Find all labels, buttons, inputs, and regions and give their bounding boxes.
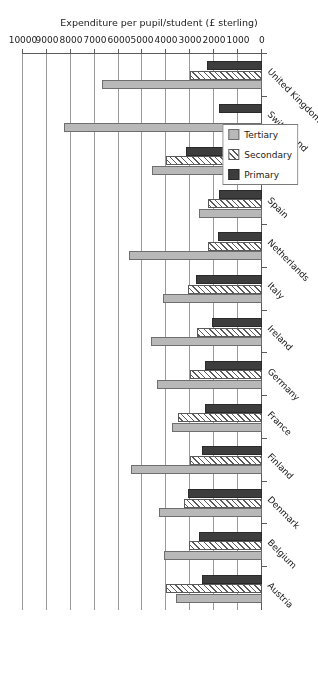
bar-tertiary bbox=[163, 294, 262, 303]
bar-tertiary bbox=[151, 337, 262, 346]
category-label: Netherlands bbox=[265, 238, 311, 284]
bar-group bbox=[23, 225, 262, 268]
bar-primary bbox=[205, 404, 262, 413]
bar-secondary bbox=[178, 413, 262, 422]
bar-group bbox=[23, 482, 262, 525]
value-axis-tick-label: 10000 bbox=[1, 35, 45, 45]
bar-tertiary bbox=[131, 465, 262, 474]
bar-tertiary bbox=[172, 423, 262, 432]
bar-group bbox=[23, 567, 262, 610]
category-label: Germany bbox=[265, 366, 301, 402]
bar-group bbox=[23, 268, 262, 311]
bar-tertiary bbox=[176, 594, 262, 603]
legend-item-tertiary: Tertiary bbox=[228, 129, 292, 140]
bar-primary bbox=[218, 232, 262, 241]
category-axis-tick bbox=[262, 523, 267, 524]
category-axis-tick bbox=[262, 53, 267, 54]
bar-group bbox=[23, 182, 262, 225]
category-label: Spain bbox=[265, 195, 290, 220]
bar-secondary bbox=[208, 242, 262, 251]
chart-legend: PrimarySecondaryTertiary bbox=[222, 124, 298, 185]
bar-secondary bbox=[197, 328, 262, 337]
secondary-swatch-icon bbox=[228, 149, 239, 160]
category-label: Ireland bbox=[265, 323, 294, 352]
bar-group bbox=[23, 353, 262, 396]
category-axis-tick bbox=[262, 352, 267, 353]
bar-group bbox=[23, 396, 262, 439]
category-axis-tick bbox=[262, 566, 267, 567]
category-axis-tick bbox=[262, 96, 267, 97]
legend-item-secondary: Secondary bbox=[228, 149, 292, 160]
bar-secondary bbox=[189, 541, 262, 550]
category-label: Finland bbox=[265, 452, 295, 482]
bar-tertiary bbox=[102, 80, 262, 89]
bar-tertiary bbox=[159, 508, 262, 517]
tertiary-swatch-icon bbox=[228, 129, 239, 140]
legend-label: Secondary bbox=[244, 150, 292, 160]
bar-primary bbox=[207, 61, 262, 70]
bar-secondary bbox=[190, 456, 262, 465]
legend-label: Tertiary bbox=[244, 130, 278, 140]
bar-group bbox=[23, 439, 262, 482]
bar-tertiary bbox=[157, 380, 262, 389]
category-label: Denmark bbox=[265, 495, 301, 531]
bar-group bbox=[23, 524, 262, 567]
bar-secondary bbox=[190, 71, 262, 80]
category-axis-tick bbox=[262, 438, 267, 439]
category-axis-tick bbox=[262, 267, 267, 268]
bar-secondary bbox=[188, 285, 262, 294]
legend-item-primary: Primary bbox=[228, 169, 292, 180]
category-axis-tick bbox=[262, 481, 267, 482]
category-axis-tick bbox=[262, 395, 267, 396]
category-label: Italy bbox=[265, 281, 286, 302]
category-axis-tick bbox=[262, 224, 267, 225]
bar-primary bbox=[219, 104, 262, 113]
grouped-bar-chart: Expenditure per pupil/student (£ sterlin… bbox=[0, 0, 318, 682]
bar-primary bbox=[188, 489, 262, 498]
bar-primary bbox=[202, 446, 262, 455]
bar-secondary bbox=[184, 499, 262, 508]
category-label: France bbox=[265, 409, 293, 437]
bar-primary bbox=[199, 532, 262, 541]
primary-swatch-icon bbox=[228, 169, 239, 180]
bar-primary bbox=[205, 361, 262, 370]
category-label: Austria bbox=[265, 580, 295, 610]
category-label: Belgium bbox=[265, 537, 298, 570]
value-axis-title: Expenditure per pupil/student (£ sterlin… bbox=[0, 17, 318, 28]
bar-tertiary bbox=[129, 251, 262, 260]
bar-primary bbox=[212, 318, 262, 327]
bar-primary bbox=[219, 190, 262, 199]
bar-primary bbox=[202, 575, 262, 584]
category-axis-tick bbox=[262, 310, 267, 311]
bar-secondary bbox=[208, 199, 262, 208]
bar-secondary bbox=[190, 370, 262, 379]
bar-primary bbox=[196, 275, 262, 284]
chart-figure: Expenditure per pupil/student (£ sterlin… bbox=[0, 0, 318, 682]
legend-label: Primary bbox=[244, 170, 279, 180]
bar-tertiary bbox=[164, 551, 262, 560]
bar-tertiary bbox=[199, 209, 262, 218]
bar-secondary bbox=[166, 584, 262, 593]
bar-group bbox=[23, 54, 262, 97]
bar-group bbox=[23, 311, 262, 354]
